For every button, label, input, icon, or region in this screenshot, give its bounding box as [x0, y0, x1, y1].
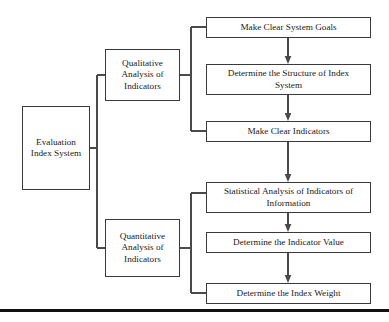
node-quantitative-analysis[interactable]: Quantitative Analysis of Indicators [105, 219, 180, 277]
node-statistical-analysis-of-indicators[interactable]: Statistical Analysis of Indicators of In… [206, 182, 371, 213]
flowchart-canvas: Evaluation Index System Qualitative Anal… [0, 0, 389, 322]
node-determine-indicator-value[interactable]: Determine the Indicator Value [206, 232, 371, 253]
node-determine-structure-of-index-system[interactable]: Determine the Structure of Index System [206, 64, 371, 95]
node-label: Make Clear Indicators [244, 126, 332, 137]
node-label: Determine the Indicator Value [230, 237, 347, 248]
node-label: Quantitative Analysis of Indicators [117, 231, 168, 265]
edge-qualitative-to-upper-group [180, 27, 206, 131]
node-label: Determine the Structure of Index System [225, 68, 352, 90]
edge-root-to-branches [90, 75, 105, 248]
node-make-clear-system-goals[interactable]: Make Clear System Goals [206, 17, 371, 38]
edge-quantitative-to-lower-group [180, 193, 206, 293]
node-qualitative-analysis[interactable]: Qualitative Analysis of Indicators [105, 49, 180, 101]
bottom-divider-rule [0, 309, 389, 312]
node-determine-index-weight[interactable]: Determine the Index Weight [206, 283, 371, 304]
node-label: Evaluation Index System [28, 137, 84, 159]
node-label: Qualitative Analysis of Indicators [118, 58, 166, 92]
node-evaluation-index-system[interactable]: Evaluation Index System [22, 106, 90, 190]
node-label: Determine the Index Weight [234, 288, 344, 299]
node-label: Statistical Analysis of Indicators of In… [221, 186, 356, 208]
node-label: Make Clear System Goals [237, 22, 339, 33]
node-make-clear-indicators[interactable]: Make Clear Indicators [206, 121, 371, 142]
